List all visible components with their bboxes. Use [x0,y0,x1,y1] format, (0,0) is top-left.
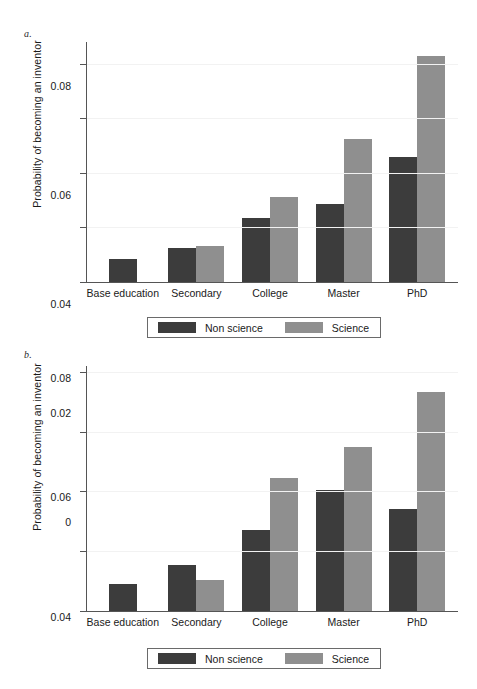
x-axis-category-label: Secondary [171,287,221,299]
bar-group: Secondary [160,42,234,282]
panel-a-legend-label-science: Science [332,322,369,334]
panel-b: b. Probability of becoming an inventor B… [0,345,477,689]
bar-group: Base education [86,366,160,611]
panel-a-legend-item-science: Science [285,322,369,334]
gridline [87,173,458,174]
y-axis-tick-label: 0.06 [51,189,71,201]
panel-b-legend-label-science: Science [332,653,369,665]
bar-group: Master [307,366,381,611]
panel-a: a. Probability of becoming an inventor B… [0,0,477,344]
gridline [87,372,458,373]
y-axis-tick-label: 0.04 [51,298,71,310]
y-axis-tick: 0 [80,282,86,283]
bar-science [196,580,224,611]
panel-a-legend: Non science Science [147,317,381,338]
y-axis-tick: 0.08 [80,64,86,65]
gridline [87,491,458,492]
panel-b-plot-area: Base educationSecondaryCollegeMasterPhD … [86,366,454,611]
x-axis-category-label: College [252,287,288,299]
x-axis-category-label: Base education [87,287,159,299]
x-axis-category-label: Base education [87,616,159,628]
x-axis-category-label: Master [328,616,360,628]
bar-group: Base education [86,42,160,282]
panel-a-y-axis-label: Probability of becoming an inventor [31,9,43,239]
gridline [87,64,458,65]
panel-a-legend-item-nonscience: Non science [158,322,263,334]
y-axis-tick: 0.02 [80,227,86,228]
panel-a-legend-swatch-science [285,322,323,333]
panel-b-legend-swatch-nonscience [158,653,196,664]
y-axis-tick-label: 0.06 [51,491,71,503]
bar-science [270,478,298,611]
bar-group: Master [307,42,381,282]
y-axis-tick: 0.06 [80,432,86,433]
bar-nonscience [109,259,137,282]
bar-nonscience [109,584,137,611]
bar-science [417,392,445,611]
panel-b-bars: Base educationSecondaryCollegeMasterPhD [86,366,454,611]
x-axis-category-label: College [252,616,288,628]
y-axis-tick: 0.04 [80,491,86,492]
panel-a-bars: Base educationSecondaryCollegeMasterPhD [86,42,454,282]
bar-nonscience [389,157,417,282]
y-axis-tick: 0.06 [80,118,86,119]
panel-b-legend: Non science Science [147,648,381,669]
x-axis-category-label: Master [328,287,360,299]
panel-b-y-axis-label: Probability of becoming an inventor [31,332,43,562]
bar-nonscience [168,565,196,611]
bar-nonscience [242,530,270,611]
gridline [87,227,458,228]
bar-science [196,246,224,282]
bar-group: College [233,366,307,611]
y-axis-tick: 0.02 [80,551,86,552]
x-axis-category-label: Secondary [171,616,221,628]
x-axis-category-label: PhD [407,287,427,299]
y-axis-tick: 0.04 [80,173,86,174]
y-axis-tick: 0 [80,611,86,612]
panel-b-legend-item-nonscience: Non science [158,653,263,665]
panel-a-legend-label-nonscience: Non science [205,322,263,334]
bar-science [417,56,445,282]
y-axis-tick-label: 0.04 [51,611,71,623]
gridline [87,551,458,552]
bar-nonscience [316,204,344,282]
bar-group: College [233,42,307,282]
y-axis-tick-label: 0.08 [51,372,71,384]
panel-b-legend-label-nonscience: Non science [205,653,263,665]
bar-group: PhD [380,42,454,282]
panel-b-legend-item-science: Science [285,653,369,665]
y-axis-tick-label: 0.08 [51,80,71,92]
panel-a-plot-area: Base educationSecondaryCollegeMasterPhD … [86,42,454,282]
bar-group: PhD [380,366,454,611]
gridline [87,118,458,119]
bar-science [344,139,372,282]
x-axis-category-label: PhD [407,616,427,628]
bar-nonscience [389,509,417,611]
panel-a-legend-swatch-nonscience [158,322,196,333]
y-axis-tick: 0.08 [80,372,86,373]
bar-group: Secondary [160,366,234,611]
panel-b-x-axis-line [80,611,458,612]
bar-science [344,447,372,611]
panel-a-x-axis-line [80,282,458,283]
gridline [87,432,458,433]
bar-science [270,197,298,282]
panel-b-legend-swatch-science [285,653,323,664]
bar-nonscience [168,248,196,282]
